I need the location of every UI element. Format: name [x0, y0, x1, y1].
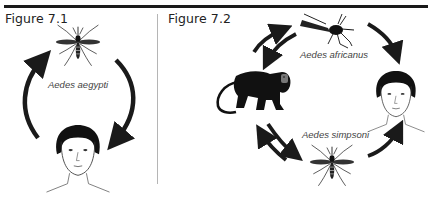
arrow-africanus-to-human: [368, 24, 396, 54]
arrow-mosquito-to-human: [116, 60, 133, 140]
mosquito-aedes-simpsoni-icon: [310, 145, 354, 186]
human-icon-fig1: [47, 125, 110, 192]
arrow-human-to-mosquito: [25, 60, 42, 138]
monkey-icon: [218, 71, 291, 113]
mosquito-aedes-aegypti-icon: [56, 25, 100, 66]
arrow-simpsoni-to-human: [368, 130, 398, 156]
arrow-africanus-to-monkey: [268, 34, 296, 60]
human-icon-fig2: [368, 71, 425, 132]
diagram-canvas: [0, 0, 434, 197]
mosquito-aedes-africanus-icon: [300, 14, 354, 48]
arrow-simpsoni-to-monkey: [262, 134, 286, 160]
